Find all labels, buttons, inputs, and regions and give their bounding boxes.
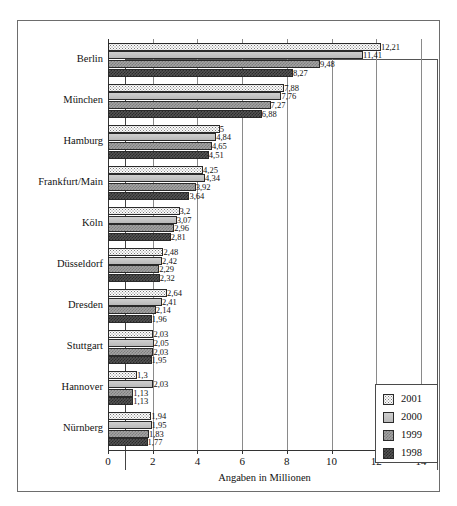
legend: 2001200019991998 [375,384,438,463]
x-tick-4 [197,450,198,454]
bar-value-label: 1,96 [152,315,167,324]
bar-value-label: 12,21 [381,42,400,51]
x-tick-label-2: 2 [150,456,156,467]
bar-value-label: 1,3 [137,371,148,380]
category-label-frankfurt-main: Frankfurt/Main [38,177,103,188]
bar-hannover-1999: 1,13 [108,389,133,397]
bar-berlin-2001: 12,21 [108,43,381,51]
bar-value-label: 3,64 [189,192,204,201]
category-label-berlin: Berlin [77,54,103,65]
bar-stuttgart-1999: 2,03 [108,348,153,356]
bar-value-label: 8,27 [293,68,308,77]
bar-value-label: 2,32 [160,274,175,283]
bar-group: Frankfurt/Main4,254,343,923,64 [108,162,421,203]
bar-m-nchen-2000: 7,76 [108,92,281,100]
bar-hamburg-1998: 4,51 [108,151,209,159]
legend-label-1998: 1998 [401,448,422,459]
bar-d-sseldorf-2000: 2,42 [108,257,162,265]
bar-frankfurt-main-2001: 4,25 [108,166,203,174]
x-tick-label-6: 6 [239,456,245,467]
bar-hannover-1998: 1,13 [108,397,133,405]
legend-label-1999: 1999 [401,430,422,441]
bar-group: Köln3,23,072,962,81 [108,203,421,244]
legend-item-2000: 2000 [376,408,437,426]
bar-value-label: 1,13 [133,397,148,406]
bar-d-sseldorf-2001: 2,48 [108,248,163,256]
bar-berlin-1999: 9,48 [108,60,320,68]
x-tick-label-0: 0 [105,456,111,467]
bar-stuttgart-2000: 2,05 [108,339,154,347]
category-label-m-nchen: München [63,95,103,106]
category-label-d-sseldorf: Düsseldorf [57,259,103,270]
legend-item-1998: 1998 [376,444,437,462]
bar-dresden-2001: 2,64 [108,289,167,297]
bar-group: Dresden2,642,412,141,96 [108,286,421,327]
bar-value-label: 2,03 [153,380,168,389]
bar-value-label: 2,81 [171,233,186,242]
bar-dresden-2000: 2,41 [108,298,162,306]
category-label-dresden: Dresden [68,300,103,311]
bar-k-ln-2001: 3,2 [108,207,180,215]
legend-label-2000: 2000 [401,412,422,423]
bar-hannover-2001: 1,3 [108,371,137,379]
bar-value-label: 1,77 [148,438,163,447]
bar-group: Hamburg54,844,654,51 [108,121,421,162]
bar-n-rnberg-1999: 1,83 [108,430,149,438]
bar-m-nchen-1998: 6,88 [108,110,262,118]
bar-stuttgart-1998: 1,95 [108,356,152,364]
bar-group: Berlin12,2111,419,488,27 [108,39,421,80]
category-label-stuttgart: Stuttgart [67,341,103,352]
bar-frankfurt-main-1999: 3,92 [108,183,196,191]
figure-frame: Berlin12,2111,419,488,27München7,887,767… [17,20,440,492]
bar-stuttgart-2001: 2,03 [108,330,153,338]
x-axis-title: Angaben in Millionen [108,472,421,483]
x-tick-8 [287,450,288,454]
bar-value-label: 1,95 [152,356,167,365]
bar-berlin-1998: 8,27 [108,69,293,77]
legend-swatch-1999 [383,430,394,441]
bar-n-rnberg-2001: 1,94 [108,412,151,420]
bar-frankfurt-main-1998: 3,64 [108,192,189,200]
bar-d-sseldorf-1998: 2,32 [108,274,160,282]
x-tick-0 [108,450,109,454]
bar-group: Düsseldorf2,482,422,292,32 [108,245,421,286]
x-tick-6 [242,450,243,454]
x-tick-10 [332,450,333,454]
x-tick-2 [153,450,154,454]
legend-swatch-2001 [383,394,394,405]
legend-swatch-2000 [383,412,394,423]
x-tick-label-8: 8 [284,456,290,467]
legend-item-1999: 1999 [376,426,437,444]
bar-value-label: 9,48 [320,60,335,69]
category-label-hamburg: Hamburg [64,136,103,147]
bar-hamburg-1999: 4,65 [108,142,212,150]
category-label-k-ln: Köln [82,218,103,229]
bar-m-nchen-2001: 7,88 [108,84,284,92]
bar-n-rnberg-1998: 1,77 [108,438,148,446]
bar-d-sseldorf-1999: 2,29 [108,265,159,273]
bar-k-ln-1998: 2,81 [108,233,171,241]
category-label-hannover: Hannover [62,382,103,393]
bar-frankfurt-main-2000: 4,34 [108,174,205,182]
bar-value-label: 6,88 [262,109,277,118]
legend-item-2001: 2001 [376,390,437,408]
bar-value-label: 11,41 [363,51,382,60]
x-tick-label-4: 4 [195,456,201,467]
legend-label-2001: 2001 [401,394,422,405]
bar-n-rnberg-2000: 1,95 [108,421,152,429]
bar-value-label: 4,51 [209,151,224,160]
x-tick-label-10: 10 [326,456,337,467]
bar-hamburg-2001: 5 [108,125,220,133]
bar-hamburg-2000: 4,84 [108,133,216,141]
bar-dresden-1999: 2,14 [108,306,156,314]
bar-k-ln-2000: 3,07 [108,216,177,224]
bar-k-ln-1999: 2,96 [108,224,174,232]
bar-m-nchen-1999: 7,27 [108,101,271,109]
legend-swatch-1998 [383,448,394,459]
bar-group: Stuttgart2,032,052,031,95 [108,327,421,368]
bar-group: München7,887,767,276,88 [108,80,421,121]
category-label-n-rnberg: Nürnberg [63,423,103,434]
bar-dresden-1998: 1,96 [108,315,152,323]
